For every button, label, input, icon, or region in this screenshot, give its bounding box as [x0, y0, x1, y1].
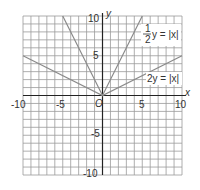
x-tick-neg10: -10	[11, 99, 26, 110]
y-tick-5: 5	[93, 50, 99, 61]
coordinate-plane: y x O -10 -5 5 10 10 5 -5 -10 1 2 y = |x…	[0, 0, 200, 190]
x-axis-label: x	[184, 87, 191, 98]
origin-label: O	[95, 98, 103, 109]
eq2-label: 2y = |x|	[147, 73, 179, 84]
eq1-fraction-denominator: 2	[145, 34, 151, 45]
y-tick-neg5: -5	[91, 128, 100, 139]
y-tick-neg10: -10	[83, 168, 98, 179]
x-tick-5: 5	[139, 99, 145, 110]
x-tick-10: 10	[175, 99, 187, 110]
y-tick-10: 10	[88, 13, 100, 24]
eq1-label: y = |x|	[152, 29, 179, 40]
eq1-fraction-numerator: 1	[145, 23, 151, 34]
x-tick-neg5: -5	[56, 99, 65, 110]
y-axis-label: y	[105, 8, 112, 19]
